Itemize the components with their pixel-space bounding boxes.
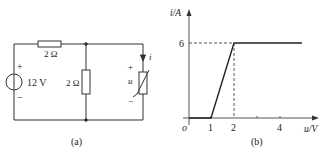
source-voltage-label: 12 V: [27, 77, 47, 88]
y-axis-arrow-icon: [187, 9, 192, 16]
x-tick-label-2: 2: [231, 122, 236, 133]
y-tick-label-6: 6: [179, 38, 184, 49]
nonlinear-minus-label: −: [128, 96, 133, 106]
figure-a-caption: (a): [71, 136, 82, 148]
figure-b-caption: (b): [251, 136, 263, 148]
nonlinear-current-label: i: [149, 52, 152, 62]
circuit-figure: + − 12 V 2 Ω 2 Ω + u − i (a) i/A 6 o 1 2…: [0, 0, 324, 160]
x-tick-label-4: 4: [277, 122, 282, 133]
x-axis-label: u/V: [304, 124, 318, 134]
x-tick-label-1: 1: [208, 122, 213, 133]
source-plus-label: +: [17, 61, 23, 72]
iv-characteristic-line: [189, 43, 302, 118]
nonlinear-plus-label: +: [128, 62, 133, 72]
nonlinear-voltage-label: u: [128, 76, 133, 86]
y-axis-label: i/A: [170, 8, 181, 18]
junction-bottom-icon: [85, 119, 88, 122]
junction-top-icon: [85, 43, 88, 46]
x-axis-arrow-icon: [312, 116, 319, 121]
current-arrow-icon: [141, 55, 146, 61]
source-minus-label: −: [17, 92, 23, 103]
iv-graph-b: [183, 9, 319, 125]
series-resistor-icon: [38, 41, 61, 47]
series-resistor-label: 2 Ω: [44, 49, 58, 59]
shunt-resistor-icon: [82, 70, 90, 94]
origin-label: o: [182, 122, 187, 133]
shunt-resistor-label: 2 Ω: [66, 78, 80, 88]
